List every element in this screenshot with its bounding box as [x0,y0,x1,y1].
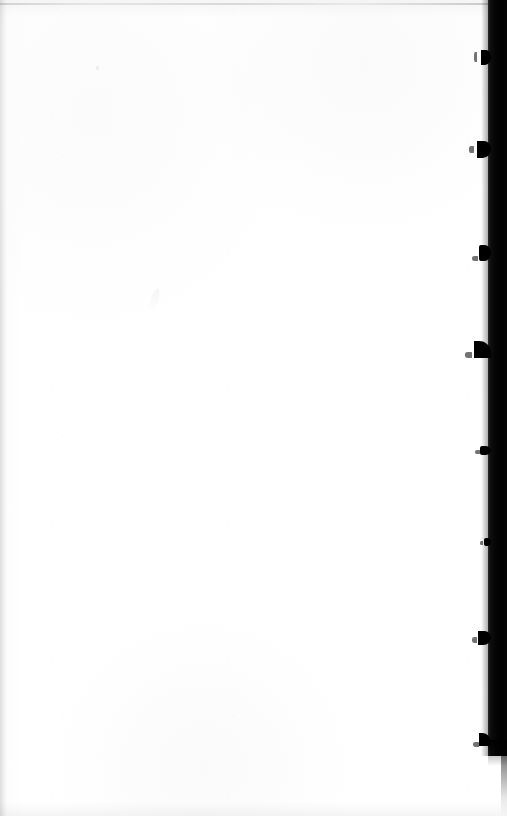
binding-gutter [488,0,507,756]
left-edge-shading [0,0,9,816]
binding-gutter-sliver [501,752,507,816]
scanned-page [0,0,507,816]
staple-mark-3-tick [472,256,478,261]
top-edge-rule [0,3,507,5]
staple-mark-7-tick [472,637,477,643]
staple-mark-1-tick [474,52,477,62]
bottom-edge-shading [0,802,507,816]
staple-mark-6-tick [480,541,483,545]
staple-mark-2-tick [469,146,474,153]
paper-speck [96,66,99,70]
staple-mark-4-tick [465,352,472,358]
scan-grain-overlay [0,0,507,816]
